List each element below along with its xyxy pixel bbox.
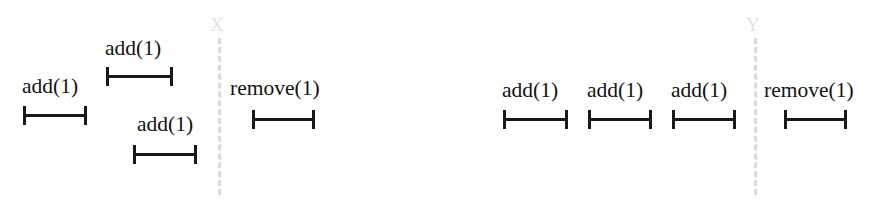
divider-line-x [218, 38, 221, 195]
interval-bar [106, 75, 173, 78]
interval-bar [133, 153, 197, 156]
op-label-right-add-1: add(1) [502, 80, 558, 102]
interval-end-tick [844, 110, 847, 129]
op-label-right-remove-1: remove(1) [764, 80, 854, 102]
interval-bar [252, 118, 315, 121]
interval-start-tick [133, 145, 136, 164]
interval-end-tick [649, 110, 652, 129]
op-label-left-add-3: add(1) [137, 114, 193, 136]
interval-end-tick [170, 67, 173, 86]
interval-bar [23, 114, 87, 117]
op-label-left-add-2: add(1) [105, 38, 161, 60]
interval-start-tick [503, 110, 506, 129]
interval-bar [588, 118, 652, 121]
interval-end-tick [84, 106, 87, 125]
divider-line-y [754, 38, 757, 195]
interval-bar [672, 118, 736, 121]
divider-label-y: Y [746, 15, 760, 34]
interval-start-tick [106, 67, 109, 86]
interval-bar [503, 118, 568, 121]
op-label-right-add-2: add(1) [587, 80, 643, 102]
op-label-left-remove-1: remove(1) [230, 78, 320, 100]
operation-timeline-diagram: X Y add(1) add(1) add(1) remove(1) add(1… [0, 0, 887, 213]
interval-bar [784, 118, 847, 121]
op-label-left-add-1: add(1) [22, 76, 78, 98]
interval-start-tick [588, 110, 591, 129]
interval-start-tick [672, 110, 675, 129]
interval-end-tick [312, 110, 315, 129]
interval-end-tick [194, 145, 197, 164]
op-label-right-add-3: add(1) [671, 80, 727, 102]
interval-start-tick [252, 110, 255, 129]
divider-label-x: X [210, 15, 224, 34]
interval-start-tick [784, 110, 787, 129]
interval-start-tick [23, 106, 26, 125]
interval-end-tick [733, 110, 736, 129]
interval-end-tick [565, 110, 568, 129]
